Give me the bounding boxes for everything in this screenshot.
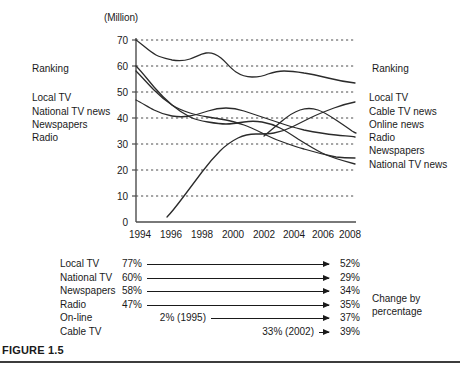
ranking-right-title: Ranking xyxy=(372,62,447,75)
y-tick-10: 10 xyxy=(117,191,129,202)
y-tick-0: 0 xyxy=(122,217,128,228)
y-tick-50: 50 xyxy=(117,87,129,98)
x-tick-2000: 2000 xyxy=(222,229,245,240)
y-tick-40: 40 xyxy=(117,113,129,124)
series-lines xyxy=(136,40,356,217)
x-tick-2006: 2006 xyxy=(312,229,335,240)
table-row: Local TV 77% 52% xyxy=(0,258,460,272)
x-tick-2002: 2002 xyxy=(253,229,276,240)
row-from-value: 33% (2002) xyxy=(240,326,314,337)
ranking-right-item-5: National TV news xyxy=(369,158,447,171)
y-tick-labels: 70 60 50 40 30 20 10 0 xyxy=(117,35,129,228)
row-to-value: 37% xyxy=(340,312,360,323)
ranking-left: Ranking Local TV National TV news Newspa… xyxy=(32,62,110,144)
row-to-value: 34% xyxy=(340,285,360,296)
row-to-value: 35% xyxy=(340,299,360,310)
x-tick-2008: 2008 xyxy=(339,229,362,240)
ranking-left-item-1: National TV news xyxy=(32,105,110,118)
row-to-value: 29% xyxy=(340,272,360,283)
ranking-left-item-3: Radio xyxy=(32,131,110,144)
y-tick-70: 70 xyxy=(117,35,129,46)
ranking-right-item-4: Newspapers xyxy=(369,144,447,157)
row-label: National TV xyxy=(60,272,112,283)
row-to-value: 52% xyxy=(340,258,360,269)
row-label: Cable TV xyxy=(60,326,102,337)
y-tick-30: 30 xyxy=(117,139,129,150)
figure-rule-divider xyxy=(0,361,460,363)
ranking-right: Ranking Local TV Cable TV news Online ne… xyxy=(369,62,447,171)
y-tick-60: 60 xyxy=(117,61,129,72)
row-arrow xyxy=(211,318,329,319)
row-arrow xyxy=(147,291,329,292)
row-arrow xyxy=(319,332,329,333)
x-tick-2004: 2004 xyxy=(283,229,306,240)
table-row: National TV 60% 29% xyxy=(0,272,460,286)
change-by-percentage-caption: Change by percentage xyxy=(372,292,422,319)
ranking-left-item-2: Newspapers xyxy=(32,118,110,131)
y-axis-unit-label: (Million) xyxy=(104,12,138,23)
row-from-value: 60% xyxy=(108,272,142,283)
ranking-right-item-0: Local TV xyxy=(369,91,447,104)
row-to-value: 39% xyxy=(340,326,360,337)
row-label: On-line xyxy=(60,312,92,323)
row-arrow xyxy=(147,305,329,306)
row-from-value: 47% xyxy=(108,299,142,310)
row-arrow xyxy=(147,264,329,265)
x-tick-1996: 1996 xyxy=(160,229,183,240)
row-label: Radio xyxy=(60,299,86,310)
series-line-local-tv xyxy=(136,40,355,83)
series-line-newspapers xyxy=(136,71,355,158)
change-caption-line-1: Change by xyxy=(372,292,422,305)
row-from-value: 2% (1995) xyxy=(140,312,206,323)
x-tick-1998: 1998 xyxy=(191,229,214,240)
x-tick-labels: 1994 1996 1998 2000 2002 2004 2006 2008 xyxy=(129,229,362,240)
gridlines xyxy=(136,40,355,196)
ranking-right-item-2: Online news xyxy=(369,118,447,131)
figure-caption: FIGURE 1.5 xyxy=(2,344,64,356)
ranking-right-item-3: Radio xyxy=(369,131,447,144)
row-from-value: 77% xyxy=(108,258,142,269)
row-label: Local TV xyxy=(60,258,99,269)
y-tick-20: 20 xyxy=(117,165,129,176)
ranking-left-title: Ranking xyxy=(32,62,110,75)
ranking-left-item-0: Local TV xyxy=(32,91,110,104)
change-caption-line-2: percentage xyxy=(372,305,422,318)
row-from-value: 58% xyxy=(108,285,142,296)
x-tick-1994: 1994 xyxy=(129,229,152,240)
row-arrow xyxy=(147,278,329,279)
table-row: Cable TV 33% (2002) 39% xyxy=(0,326,460,340)
ranking-right-item-1: Cable TV news xyxy=(369,105,447,118)
